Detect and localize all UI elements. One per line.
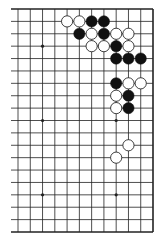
black-stone (123, 90, 134, 101)
white-stone (135, 78, 146, 89)
star-point (115, 119, 118, 122)
white-stone (98, 41, 109, 52)
black-stone (123, 103, 134, 114)
go-board (0, 0, 160, 240)
white-stone (123, 28, 134, 39)
black-stone (98, 28, 109, 39)
white-stone (123, 78, 134, 89)
star-point (41, 45, 44, 48)
white-stone (111, 152, 122, 163)
white-stone (111, 103, 122, 114)
white-stone (111, 28, 122, 39)
star-point (115, 193, 118, 196)
black-stone (123, 53, 134, 64)
white-stone (86, 28, 97, 39)
black-stone (135, 53, 146, 64)
white-stone (123, 41, 134, 52)
white-stone (111, 90, 122, 101)
white-stone (86, 41, 97, 52)
black-stone (111, 41, 122, 52)
white-stone (74, 16, 85, 27)
black-stone (74, 28, 85, 39)
black-stone (86, 16, 97, 27)
white-stone (123, 140, 134, 151)
star-point (41, 119, 44, 122)
black-stone (98, 16, 109, 27)
star-point (41, 193, 44, 196)
white-stone (61, 16, 72, 27)
black-stone (111, 78, 122, 89)
black-stone (111, 53, 122, 64)
